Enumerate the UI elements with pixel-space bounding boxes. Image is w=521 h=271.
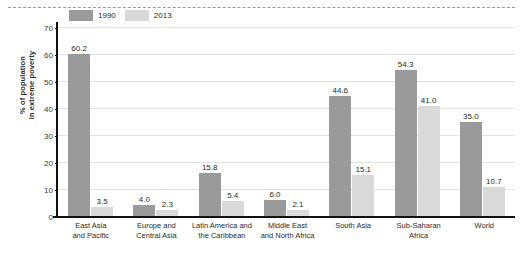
bar-value-label: 41.0 [421,96,437,105]
bar-column: 35.0 [460,22,482,216]
bar-value-label: 2.1 [292,200,303,209]
chart-legend: 1990 2013 [69,10,172,21]
bar-2013[interactable] [91,207,113,216]
bar-column: 2.3 [156,22,178,216]
bar-2013[interactable] [483,187,505,216]
y-axis-tick-label: 50 [44,78,53,87]
y-axis-tick-label: 40 [44,105,53,114]
bar-pair: 44.615.1 [319,22,384,216]
bar-column: 60.2 [68,22,90,216]
bar-1990[interactable] [68,54,90,216]
bar-column: 6.0 [264,22,286,216]
bar-value-label: 15.8 [202,163,218,172]
bar-column: 10.7 [483,22,505,216]
x-axis-category-labels: East Asiaand PacificEurope andCentral As… [58,221,517,240]
y-axis-tick-label: 20 [44,159,53,168]
bar-2013[interactable] [156,210,178,216]
x-axis-category-label: Middle Eastand North Africa [255,221,321,240]
bar-group: 35.010.7 [450,22,515,216]
y-axis-title-line-2: in extreme poverty [27,25,36,145]
bar-2013[interactable] [352,175,374,216]
x-axis-category-label: Sub-SaharanAfrica [386,221,452,240]
bar-column: 15.8 [199,22,221,216]
legend-swatch-2013 [125,10,149,21]
x-axis-category-label: Latin America andthe Caribbean [189,221,255,240]
y-axis-tick-label: 30 [44,132,53,141]
plot-area: 010203040506070 60.23.54.02.315.85.46.02… [56,22,515,216]
bar-group: 54.341.0 [384,22,449,216]
category-label-line: World [451,221,517,231]
bar-column: 44.6 [329,22,351,216]
bar-value-label: 60.2 [71,44,87,53]
bar-1990[interactable] [199,173,221,216]
category-label-line: the Caribbean [189,231,255,241]
bar-column: 54.3 [395,22,417,216]
bar-column: 41.0 [418,22,440,216]
bar-value-label: 3.5 [97,197,108,206]
y-axis-tick-mark [55,217,58,218]
bar-pair: 15.85.4 [189,22,254,216]
bar-1990[interactable] [395,70,417,216]
bar-value-label: 10.7 [486,177,502,186]
category-label-line: South Asia [320,221,386,231]
chart-figure: % of population in extreme poverty 01020… [0,0,521,271]
bar-pair: 6.02.1 [254,22,319,216]
category-label-line: and North Africa [255,231,321,241]
bar-column: 3.5 [91,22,113,216]
bar-column: 15.1 [352,22,374,216]
bar-group: 4.02.3 [123,22,188,216]
bar-pair: 54.341.0 [384,22,449,216]
bar-pair: 35.010.7 [450,22,515,216]
bar-groups: 60.23.54.02.315.85.46.02.144.615.154.341… [58,22,515,216]
bar-2013[interactable] [418,106,440,216]
y-axis-tick-label: 10 [44,186,53,195]
category-label-line: Africa [386,231,452,241]
bar-value-label: 5.4 [227,191,238,200]
bar-value-label: 15.1 [355,165,371,174]
bar-2013[interactable] [287,210,309,216]
bar-value-label: 35.0 [463,112,479,121]
bar-pair: 60.23.5 [58,22,123,216]
category-label-line: Middle East [255,221,321,231]
category-label-line: Sub-Saharan [386,221,452,231]
legend-item-2013: 2013 [125,10,172,21]
bar-column: 4.0 [133,22,155,216]
bar-value-label: 44.6 [332,86,348,95]
bar-value-label: 2.3 [162,200,173,209]
y-axis-title-line-1: % of population [18,25,27,145]
y-axis-tick-label: 60 [44,51,53,60]
bar-1990[interactable] [264,200,286,216]
bar-value-label: 6.0 [269,190,280,199]
x-axis-category-label: South Asia [320,221,386,240]
top-divider-rule [8,7,515,8]
y-axis-tick-label: 0 [49,213,53,222]
legend-item-1990: 1990 [69,10,116,21]
legend-label-1990: 1990 [98,11,116,20]
category-label-line: Latin America and [189,221,255,231]
bar-group: 15.85.4 [189,22,254,216]
bar-2013[interactable] [222,201,244,216]
bar-1990[interactable] [460,122,482,216]
x-axis-category-label: Europe andCentral Asia [124,221,190,240]
gridline: 0 [58,216,515,217]
x-axis-category-label: World [451,221,517,240]
category-label-line: Europe and [124,221,190,231]
category-label-line: Central Asia [124,231,190,241]
bar-group: 6.02.1 [254,22,319,216]
bar-1990[interactable] [329,96,351,216]
y-axis-title: % of population in extreme poverty [18,25,36,145]
bar-column: 5.4 [222,22,244,216]
bar-column: 2.1 [287,22,309,216]
bar-group: 44.615.1 [319,22,384,216]
legend-swatch-1990 [69,10,93,21]
category-label-line: and Pacific [58,231,124,241]
bar-group: 60.23.5 [58,22,123,216]
bar-value-label: 54.3 [398,60,414,69]
category-label-line: East Asia [58,221,124,231]
bar-pair: 4.02.3 [123,22,188,216]
bar-value-label: 4.0 [139,195,150,204]
bar-1990[interactable] [133,205,155,216]
legend-label-2013: 2013 [154,11,172,20]
y-axis-tick-label: 70 [44,24,53,33]
x-axis-category-label: East Asiaand Pacific [58,221,124,240]
